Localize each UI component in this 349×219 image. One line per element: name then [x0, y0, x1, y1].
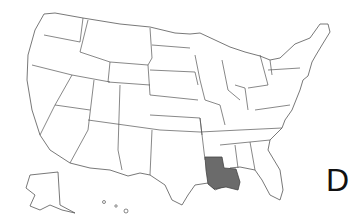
map-label: D — [326, 164, 349, 196]
us-map — [0, 0, 349, 219]
us-outline — [27, 13, 330, 205]
alaska — [26, 172, 75, 213]
hawaii — [103, 201, 129, 214]
